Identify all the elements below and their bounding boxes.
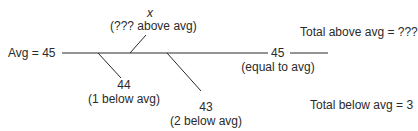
branch-44: [98, 53, 121, 78]
above-note: (??? above avg): [110, 19, 190, 33]
branch-x: [130, 35, 146, 53]
below1-value: 44: [84, 78, 164, 92]
below2-value: 43: [166, 100, 246, 114]
avg-label: Avg = 45: [8, 46, 55, 60]
total-below: Total below avg = 3: [310, 98, 413, 112]
below2-note: (2 below avg): [166, 114, 246, 128]
equal-value: 45: [271, 46, 284, 60]
below1-note: (1 below avg): [84, 92, 164, 106]
equal-note: (equal to avg): [238, 60, 318, 74]
branch-43: [167, 53, 201, 91]
above-value: x: [110, 6, 190, 20]
total-above: Total above avg = ???: [300, 25, 418, 39]
